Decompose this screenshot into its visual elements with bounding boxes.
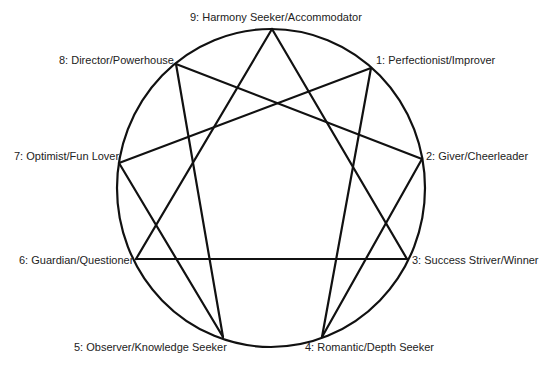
label-type-5: 5: Observer/Knowledge Seeker: [74, 341, 227, 354]
line-4-2: [322, 159, 422, 337]
line-1-4: [322, 68, 371, 337]
enneagram-circle: [117, 29, 425, 347]
label-type-1: 1: Perfectionist/Improver: [376, 54, 495, 67]
label-type-7: 7: Optimist/Fun Lover: [14, 150, 119, 163]
label-type-8: 8: Director/Powerhouse: [59, 54, 174, 67]
label-type-4: 4: Romantic/Depth Seeker: [305, 341, 434, 354]
label-type-2: 2: Giver/Cheerleader: [426, 150, 528, 163]
label-type-3: 3: Success Striver/Winner: [412, 254, 539, 267]
label-type-6: 6: Guardian/Questioner: [19, 254, 133, 267]
enneagram-lines: [119, 29, 422, 337]
label-type-9: 9: Harmony Seeker/Accommodator: [190, 11, 362, 24]
line-2-8: [176, 64, 422, 159]
